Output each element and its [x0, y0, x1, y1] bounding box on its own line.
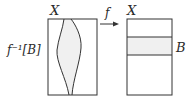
band-label: B [176, 41, 186, 54]
map-label: f [105, 7, 109, 19]
set-b-region [127, 37, 172, 55]
right-set-label: X [127, 4, 136, 17]
preimage-label: f⁻¹[B] [7, 44, 41, 56]
arrow-head-icon [113, 22, 119, 27]
left-set-label: X [50, 4, 59, 17]
codomain-set-x [127, 19, 172, 95]
